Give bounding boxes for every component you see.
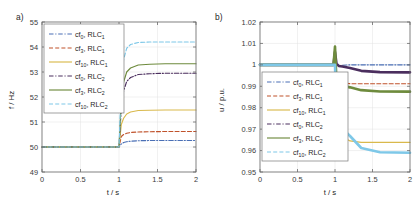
panel-b-label: b) xyxy=(215,12,223,22)
ytick-label: 52 xyxy=(30,93,38,102)
ytick-label: 0.99 xyxy=(242,82,256,91)
legend-label-4: cf3, RLC2 xyxy=(293,134,323,144)
xtick-label: 0.5 xyxy=(292,175,302,184)
ytick-label: 0.95 xyxy=(242,168,256,177)
xtick-label: 0 xyxy=(40,175,44,184)
xtick-label: 1.5 xyxy=(152,175,162,184)
legend-label-4: cf3, RLC2 xyxy=(75,86,105,96)
ytick-label: 1.01 xyxy=(242,39,256,48)
panel-a-label: a) xyxy=(16,12,24,22)
panel-a-svg: 00.511.5249505152535455 cf0, RLC1cf3, RL… xyxy=(0,0,210,203)
xtick-label: 1 xyxy=(117,175,121,184)
xtick-label: 1.5 xyxy=(367,175,377,184)
legend-label-0: cf0, RLC1 xyxy=(75,30,105,40)
ytick-label: 54 xyxy=(30,43,38,52)
panel-a-xaxis-label: t / s xyxy=(107,188,120,197)
panel-b-yaxis-label: u / p.u. xyxy=(217,88,226,112)
ytick-label: 0.98 xyxy=(242,103,256,112)
ytick-label: 55 xyxy=(30,18,38,27)
legend-label-5: cf10, RLC2 xyxy=(75,100,108,110)
legend-label-1: cf3, RLC1 xyxy=(293,92,323,102)
legend-label-3: cf0, RLC2 xyxy=(293,120,323,130)
figure-container: 00.511.5249505152535455 cf0, RLC1cf3, RL… xyxy=(0,0,420,203)
ytick-label: 53 xyxy=(30,68,38,77)
legend-label-2: cf10, RLC1 xyxy=(293,106,326,116)
panel-b-legend: cf0, RLC1cf3, RLC1cf10, RLC1cf0, RLC2cf3… xyxy=(262,72,348,161)
ytick-label: 0.96 xyxy=(242,146,256,155)
xtick-label: 1 xyxy=(333,175,337,184)
legend-label-2: cf10, RLC1 xyxy=(75,58,108,68)
ytick-label: 50 xyxy=(30,143,38,152)
xtick-label: 2 xyxy=(194,175,198,184)
panel-a-yaxis-label: f / Hz xyxy=(7,91,16,109)
panel-b-svg: 00.511.520.950.960.970.980.9911.011.02 c… xyxy=(210,0,420,203)
ytick-label: 49 xyxy=(30,168,38,177)
xtick-label: 0 xyxy=(258,175,262,184)
panel-a-legend: cf0, RLC1cf3, RLC1cf10, RLC1cf0, RLC2cf3… xyxy=(44,24,124,113)
ytick-label: 51 xyxy=(30,118,38,127)
legend-label-0: cf0, RLC1 xyxy=(293,78,323,88)
ytick-label: 1 xyxy=(252,60,256,69)
xtick-label: 2 xyxy=(408,175,412,184)
legend-label-1: cf3, RLC1 xyxy=(75,44,105,54)
panel-a: 00.511.5249505152535455 cf0, RLC1cf3, RL… xyxy=(0,0,210,203)
legend-label-3: cf0, RLC2 xyxy=(75,72,105,82)
panel-b: 00.511.520.950.960.970.980.9911.011.02 c… xyxy=(210,0,420,203)
xtick-label: 0.5 xyxy=(75,175,85,184)
legend-label-5: cf10, RLC2 xyxy=(293,148,326,158)
ytick-label: 0.97 xyxy=(242,125,256,134)
ytick-label: 1.02 xyxy=(242,18,256,27)
panel-b-xaxis-label: t / s xyxy=(324,188,337,197)
